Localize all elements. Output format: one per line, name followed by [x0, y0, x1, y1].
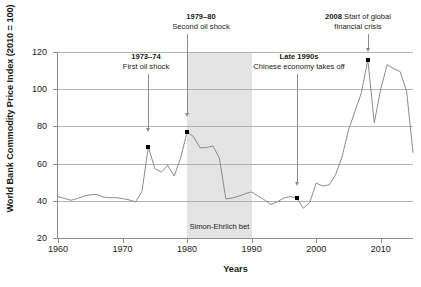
- x-tick-mark: [252, 238, 253, 243]
- y-tick-label: 80: [7, 121, 47, 131]
- x-axis-line: [57, 238, 413, 239]
- annotation-second-oil-shock-title: 1979–80: [186, 12, 216, 21]
- x-tick-mark: [316, 238, 317, 243]
- annotation-second-oil-shock: 1979–80 Second oil shock: [146, 12, 256, 31]
- annotation-financial-crisis: 2008 Start of global financial crisis: [301, 12, 415, 31]
- x-axis-title: Years: [58, 264, 413, 274]
- x-tick-label: 1990: [232, 244, 272, 254]
- annotation-first-oil-shock: 1973–74 First oil shock: [96, 52, 196, 71]
- y-tick-label: 120: [7, 47, 47, 57]
- x-tick-label: 2000: [296, 244, 336, 254]
- y-tick-label: 40: [7, 196, 47, 206]
- annotation-first-oil-shock-title: 1973–74: [131, 52, 161, 61]
- shaded-region-label: Simon-Ehrlich bet: [159, 222, 279, 231]
- annotation-arrow-financial-crisis: [368, 34, 369, 48]
- annotation-arrow-chinese-economy: [297, 74, 298, 182]
- price-index-polyline: [58, 60, 413, 208]
- x-tick-label: 1970: [103, 244, 143, 254]
- commodity-price-index-chart: World Bank Commodity Price Index (2010 =…: [0, 0, 421, 287]
- annotation-chinese-economy-text: Chinese economy takes off: [253, 62, 344, 71]
- x-tick-mark: [381, 238, 382, 243]
- y-tick-label: 60: [7, 159, 47, 169]
- y-tick-label: 100: [7, 84, 47, 94]
- x-tick-mark: [187, 238, 188, 243]
- x-tick-mark: [58, 238, 59, 243]
- annotation-first-oil-shock-text: First oil shock: [123, 62, 169, 71]
- x-tick-label: 2010: [361, 244, 401, 254]
- annotation-chinese-economy-title: Late 1990s: [280, 52, 319, 61]
- annotation-arrow-second-oil-shock: [187, 34, 188, 113]
- annotation-financial-crisis-text-a: Start of global: [342, 12, 391, 21]
- data-point-marker: [146, 145, 150, 149]
- plot-area: Simon-Ehrlich bet: [58, 52, 413, 238]
- annotation-financial-crisis-title: 2008: [325, 12, 342, 21]
- x-tick-label: 1960: [38, 244, 78, 254]
- data-point-marker: [185, 130, 189, 134]
- annotation-financial-crisis-text-b: financial crisis: [334, 22, 381, 31]
- x-tick-label: 1980: [167, 244, 207, 254]
- annotation-second-oil-shock-text: Second oil shock: [172, 22, 229, 31]
- x-tick-mark: [123, 238, 124, 243]
- annotation-chinese-economy: Late 1990s Chinese economy takes off: [233, 52, 365, 71]
- data-point-marker: [295, 196, 299, 200]
- data-point-marker: [366, 58, 370, 62]
- annotation-arrow-first-oil-shock: [148, 74, 149, 128]
- series-line: [58, 52, 413, 238]
- y-tick-label: 20: [7, 233, 47, 243]
